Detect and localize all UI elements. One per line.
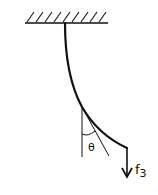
ceiling-support: [25, 12, 108, 23]
force-arrow: [122, 148, 132, 177]
force-label-subscript: 3: [140, 167, 147, 180]
angle-label: θ: [88, 141, 95, 154]
flexible-cord: [65, 23, 127, 148]
tangent-line: [82, 107, 109, 156]
force-label: f3: [135, 162, 147, 180]
diagram: θ f3: [0, 0, 158, 195]
angle-arc: [82, 131, 95, 135]
ceiling-hatching: [27, 12, 106, 22]
